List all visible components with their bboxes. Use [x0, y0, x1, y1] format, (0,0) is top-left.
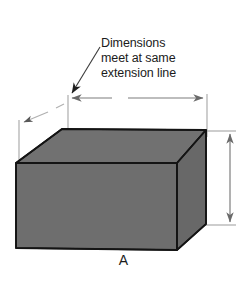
block-top-face [16, 129, 206, 163]
annotation-line-2: meet at same [101, 51, 233, 66]
technical-drawing-figure: Dimensions meet at same extension line A [0, 0, 247, 288]
annotation-line-1: Dimensions [101, 36, 233, 51]
annotation-leader-line [72, 47, 100, 93]
diagonal-dimension-lower-segment [24, 112, 48, 122]
figure-label: A [0, 252, 247, 268]
rectangular-block [16, 129, 206, 250]
annotation-callout: Dimensions meet at same extension line [101, 36, 233, 81]
annotation-line-3: extension line [101, 66, 233, 81]
leader-line-group [72, 47, 100, 93]
block-front-face [16, 163, 177, 250]
diagonal-dimension-upper-segment [56, 104, 64, 108]
